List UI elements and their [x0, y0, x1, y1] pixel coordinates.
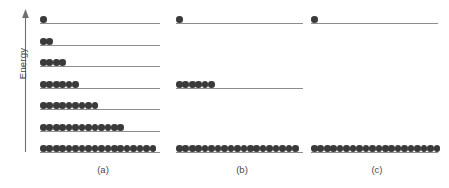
particle-dot	[427, 145, 434, 152]
energy-level	[40, 53, 160, 67]
particle-dot	[85, 145, 92, 152]
energy-level-line	[40, 66, 160, 67]
particle-dot	[40, 16, 47, 23]
particle-dot	[98, 145, 105, 152]
particle-group	[40, 10, 46, 23]
particle-dot	[59, 124, 66, 131]
particle-group	[176, 139, 299, 152]
energy-level-line	[40, 152, 160, 153]
particle-dot	[59, 145, 66, 152]
energy-level	[311, 10, 438, 24]
particle-dot	[195, 145, 202, 152]
energy-axis-label: Energy	[17, 29, 28, 99]
particle-dot	[234, 145, 241, 152]
particle-group	[311, 10, 317, 23]
energy-level	[176, 139, 303, 153]
particle-dot	[150, 145, 157, 152]
energy-level	[40, 139, 160, 153]
particle-dot	[92, 102, 99, 109]
energy-level-line	[311, 152, 438, 153]
energy-level	[40, 32, 160, 46]
particle-dot	[117, 124, 124, 131]
energy-level-line	[40, 88, 160, 89]
energy-level-line	[40, 131, 160, 132]
particle-dot	[343, 145, 350, 152]
particle-dot	[59, 102, 66, 109]
particle-dot	[72, 145, 79, 152]
energy-level-line	[176, 88, 303, 89]
particle-dot	[59, 81, 66, 88]
energy-level-line	[40, 109, 160, 110]
panel-b-caption: (b)	[176, 164, 308, 175]
energy-level-line	[176, 23, 303, 24]
panel-a: (a)	[40, 0, 166, 188]
particle-dot	[143, 145, 150, 152]
particle-group	[40, 139, 156, 152]
particle-dot	[195, 81, 202, 88]
energy-level	[311, 139, 438, 153]
energy-level	[40, 75, 160, 89]
particle-dot	[46, 38, 53, 45]
particle-dot	[208, 81, 215, 88]
energy-level-line	[40, 45, 160, 46]
particle-dot	[72, 102, 79, 109]
particle-dot	[292, 145, 299, 152]
panel-b: (b)	[176, 0, 308, 188]
particle-dot	[330, 145, 337, 152]
energy-level-diagram: Energy (a) (b) (c)	[0, 0, 449, 188]
energy-axis: Energy	[0, 0, 40, 188]
arrow-up-icon	[22, 9, 29, 18]
panel-c-caption: (c)	[311, 164, 443, 175]
particle-dot	[434, 145, 441, 152]
energy-level	[40, 96, 160, 110]
energy-level	[176, 10, 303, 24]
panel-a-caption: (a)	[40, 164, 166, 175]
energy-level	[40, 118, 160, 132]
particle-dot	[266, 145, 273, 152]
particle-dot	[369, 145, 376, 152]
particle-dot	[356, 145, 363, 152]
particle-group	[40, 96, 98, 109]
particle-dot	[130, 145, 137, 152]
particle-group	[311, 139, 440, 152]
particle-group	[40, 75, 79, 88]
energy-level-line	[176, 152, 303, 153]
particle-group	[40, 53, 66, 66]
particle-dot	[208, 145, 215, 152]
particle-dot	[401, 145, 408, 152]
particle-group	[40, 32, 53, 45]
particle-dot	[85, 102, 92, 109]
particle-group	[176, 10, 182, 23]
particle-dot	[176, 16, 183, 23]
particle-dot	[72, 81, 79, 88]
energy-level-line	[311, 23, 438, 24]
particle-dot	[59, 59, 66, 66]
particle-group	[40, 118, 124, 131]
particle-dot	[414, 145, 421, 152]
particle-group	[176, 75, 215, 88]
panel-c: (c)	[311, 0, 443, 188]
energy-level-line	[40, 23, 160, 24]
particle-dot	[72, 124, 79, 131]
particle-dot	[85, 124, 92, 131]
particle-dot	[221, 145, 228, 152]
energy-level	[176, 75, 303, 89]
particle-dot	[279, 145, 286, 152]
particle-dot	[98, 124, 105, 131]
energy-level	[40, 10, 160, 24]
particle-dot	[311, 16, 318, 23]
